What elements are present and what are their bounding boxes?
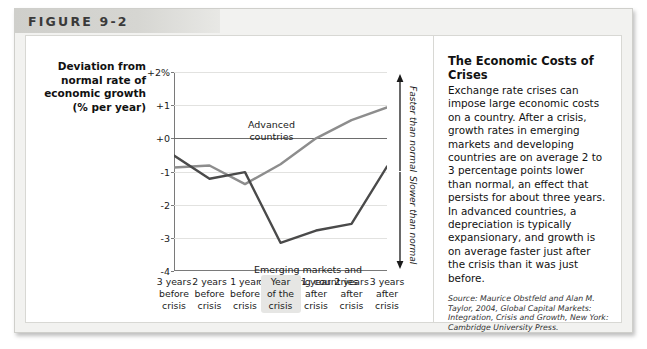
y-tick-label: +1 — [156, 100, 170, 111]
x-axis-label-line: 1 year — [296, 276, 336, 288]
figure-header-band: FIGURE 9-2 — [15, 9, 220, 33]
y-tick-label: -1 — [161, 166, 170, 177]
bracket-label-slower: Slower than normal — [407, 176, 418, 262]
figure-body: Deviation from normal rate of economic g… — [25, 35, 622, 323]
x-axis-label-line: crisis — [190, 300, 230, 312]
y-tick-label: +2% — [147, 67, 170, 78]
y-tick-label: -4 — [161, 266, 170, 277]
x-axis-label-line: after — [296, 288, 336, 300]
plot-area: +2%+1+0-1-2-3-4 — [174, 72, 387, 271]
series-label-advanced-line-1: Advanced — [248, 119, 295, 131]
x-axis-labels: 3 yearsbeforecrisis2 yearsbeforecrisis1 … — [174, 276, 387, 318]
sidebar-body-text: Exchange rate crises can impose large ec… — [448, 84, 609, 285]
x-axis-label-line: after — [367, 288, 407, 300]
bracket-label-faster: Faster than normal — [407, 86, 418, 168]
x-axis-label-line: before — [154, 288, 194, 300]
x-axis-label: 3 yearsbeforecrisis — [154, 276, 194, 311]
series-label-advanced: Advanced countries — [248, 119, 295, 142]
y-axis-title-line-2: normal rate of — [34, 74, 146, 88]
y-axis-title: Deviation from normal rate of economic g… — [34, 60, 146, 114]
x-axis-label: 2 yearsbeforecrisis — [190, 276, 230, 311]
sidebar-heading: The Economic Costs of Crises — [448, 54, 609, 82]
y-tick-label: +0 — [156, 133, 170, 144]
figure-container: FIGURE 9-2 Deviation from normal rate of… — [14, 8, 633, 333]
y-tick-mark — [171, 271, 174, 272]
x-axis-label-line: 3 years — [367, 276, 407, 288]
x-axis-label: 1 yearbeforecrisis — [225, 276, 265, 311]
x-axis-label-line: Year — [261, 276, 301, 288]
y-axis-title-line-3: economic growth — [34, 87, 146, 101]
x-axis-label-line: 1 year — [225, 276, 265, 288]
x-axis-label: 1 yearaftercrisis — [296, 276, 336, 311]
y-tick-label: -3 — [161, 232, 170, 243]
x-axis-label-line: before — [190, 288, 230, 300]
direction-bracket: Faster than normal Slower than normal — [394, 72, 434, 271]
x-axis-label-line: crisis — [367, 300, 407, 312]
y-axis-title-line-4: (% per year) — [34, 101, 146, 115]
x-axis-label-line: 2 years — [190, 276, 230, 288]
x-axis-label-line: before — [225, 288, 265, 300]
figure-number-label: FIGURE 9-2 — [28, 14, 129, 29]
x-axis-label: 3 yearsaftercrisis — [367, 276, 407, 311]
x-axis-label: Yearof thecrisis — [261, 275, 301, 313]
x-axis-label-line: crisis — [225, 300, 265, 312]
x-axis-label-line: crisis — [154, 300, 194, 312]
y-axis-title-line-1: Deviation from — [34, 60, 146, 74]
sidebar-source-note: Source: Maurice Obstfeld and Alan M. Tay… — [448, 294, 609, 332]
series-label-advanced-line-2: countries — [248, 131, 295, 143]
x-axis-label-line: crisis — [332, 300, 372, 312]
sidebar-text-panel: The Economic Costs of Crises Exchange ra… — [435, 36, 621, 322]
x-axis-label-line: crisis — [296, 300, 336, 312]
x-axis-label: 2 yearsaftercrisis — [332, 276, 372, 311]
series-label-emerging-line-1: Emerging markets and — [254, 264, 362, 276]
series-lines — [174, 72, 387, 271]
y-tick-label: -2 — [161, 199, 170, 210]
x-axis-label-line: 2 years — [332, 276, 372, 288]
x-axis-label-line: 3 years — [154, 276, 194, 288]
x-axis-label-line: of the — [261, 288, 301, 300]
x-axis-label-line: crisis — [261, 300, 301, 312]
series-line — [174, 156, 387, 243]
x-axis-label-line: after — [332, 288, 372, 300]
chart-panel: Deviation from normal rate of economic g… — [26, 36, 434, 322]
